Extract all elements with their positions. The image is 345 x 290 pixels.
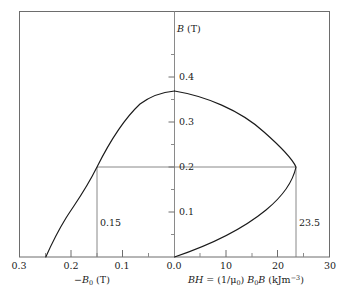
y-tick-label-0.4: 0.4 [179, 72, 194, 82]
series-demagnetization-curve [46, 91, 175, 257]
y-tick-label-0.2: 0.2 [179, 162, 194, 172]
x-right-tick-label-10: 10 [217, 261, 235, 271]
annotation-bhmax-23.5: 23.5 [299, 218, 320, 228]
chart-plot-area [0, 0, 345, 290]
x-right-tick-label-30: 30 [321, 261, 339, 271]
x-left-tick-label-0.0: 0.0 [164, 261, 184, 271]
y-axis-title: B (T) [177, 24, 201, 34]
figure-container: B (T) 0.4 0.3 0.2 0.1 0.3 0.2 0.1 0.0 10… [0, 0, 345, 290]
x-right-axis-title: BH = (1/μ0) B0B (kJm−3) [188, 275, 304, 286]
y-tick-label-0.1: 0.1 [179, 207, 194, 217]
x-left-tick-label-0.1: 0.1 [112, 261, 132, 271]
x-right-tick-label-20: 20 [269, 261, 287, 271]
x-left-tick-label-0.3: 0.3 [9, 261, 29, 271]
y-tick-label-0.3: 0.3 [179, 117, 194, 127]
annotation-working-point-0.15: 0.15 [100, 218, 121, 228]
x-left-tick-label-0.2: 0.2 [61, 261, 81, 271]
x-left-axis-title: −B0 (T) [74, 275, 110, 286]
y-minor-ticks [171, 55, 175, 235]
